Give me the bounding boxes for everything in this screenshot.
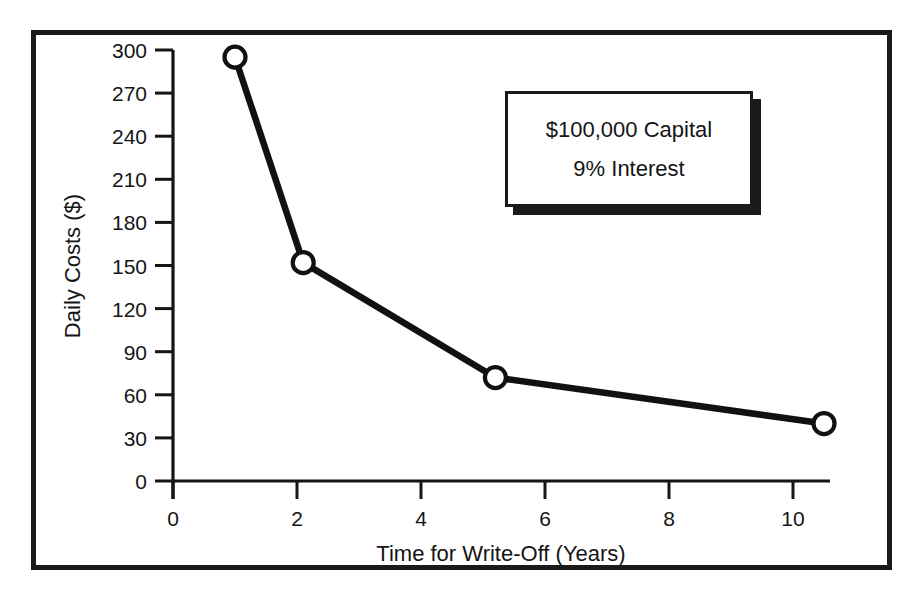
x-axis-tick-label: 0 <box>167 508 179 529</box>
y-axis-tick-label: 30 <box>124 427 147 448</box>
y-axis-tick-label: 90 <box>124 341 147 362</box>
data-point-marker <box>485 367 506 388</box>
y-axis-tick-label: 0 <box>135 471 147 492</box>
chart-figure: 0306090120150180210240270300 0246810 Dai… <box>0 0 917 598</box>
y-axis-tick-label: 60 <box>124 384 147 405</box>
y-axis-tick-label: 240 <box>112 126 147 147</box>
x-axis-title: Time for Write-Off (Years) <box>376 541 625 567</box>
annotation-box: $100,000 Capital 9% Interest <box>505 91 753 207</box>
x-axis-tick-label: 10 <box>781 508 804 529</box>
data-point-marker <box>293 252 314 273</box>
x-axis-tick-label: 2 <box>291 508 303 529</box>
x-axis-tick-label: 4 <box>415 508 427 529</box>
y-axis-tick-label: 210 <box>112 169 147 190</box>
x-axis-tick-label: 8 <box>663 508 675 529</box>
data-point-marker <box>225 47 246 68</box>
y-axis-title: Daily Costs ($) <box>60 194 86 338</box>
y-axis-tick-label: 120 <box>112 298 147 319</box>
annotation-line-capital: $100,000 Capital <box>546 119 712 141</box>
data-point-marker <box>814 413 835 434</box>
y-axis-tick-label: 270 <box>112 83 147 104</box>
y-axis-tick-label: 150 <box>112 255 147 276</box>
y-axis-tick-label: 180 <box>112 212 147 233</box>
x-axis-tick-label: 6 <box>539 508 551 529</box>
y-axis-tick-label: 300 <box>112 40 147 61</box>
annotation-line-interest: 9% Interest <box>573 158 684 180</box>
